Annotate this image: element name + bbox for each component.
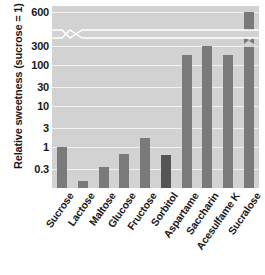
x-axis-tick-labels: SucroseLactoseMaltoseGlucoseFructoseSorb… <box>52 190 259 275</box>
y-tick-label: 1 <box>43 141 49 153</box>
y-tick-label: 0.3 <box>34 163 49 175</box>
y-tick-label: 30 <box>37 81 49 93</box>
y-tick-label: 100 <box>31 59 49 71</box>
y-tick-label: 3 <box>43 122 49 134</box>
y-tick-label: 600 <box>31 6 49 18</box>
chart-figure: Relative sweetness (sucrose = 1) 6003001… <box>0 0 265 275</box>
y-tick-label: 10 <box>37 100 49 112</box>
y-axis-tick-labels: 6003001003010310.3 <box>20 0 51 190</box>
y-tick-label: 300 <box>31 40 49 52</box>
bar-rect <box>57 147 67 188</box>
bar-sucrose[interactable] <box>57 147 67 188</box>
